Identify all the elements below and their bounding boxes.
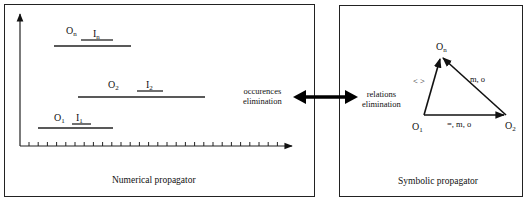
edge-O1-On — [424, 59, 440, 115]
label-In: In — [93, 28, 100, 43]
node-O2: O2 — [505, 120, 516, 135]
edge-label-O1-O2: =, m, o — [447, 119, 471, 129]
symbolic-propagator-caption: Symbolic propagator — [398, 176, 478, 186]
label-I2: I2 — [146, 79, 153, 94]
numerical-propagator-caption: Numerical propagator — [112, 175, 196, 185]
label-O2: O2 — [108, 79, 119, 94]
label-I1: I1 — [76, 112, 83, 127]
double-headed-arrow-icon — [293, 90, 358, 104]
relation-triangle — [424, 58, 506, 115]
label-On: On — [66, 25, 77, 40]
edge-label-O1-On: < > — [413, 76, 425, 86]
edge-label-O2-On: m, o — [470, 74, 485, 84]
node-On: On — [436, 41, 447, 56]
interval-O2 — [78, 91, 205, 97]
occurences-elimination-label: occurences elimination — [243, 86, 282, 106]
relations-elimination-label: relations elimination — [362, 89, 401, 109]
node-O1: O1 — [412, 121, 423, 136]
edge-O2-On — [443, 58, 506, 115]
label-O1: O1 — [54, 112, 65, 127]
